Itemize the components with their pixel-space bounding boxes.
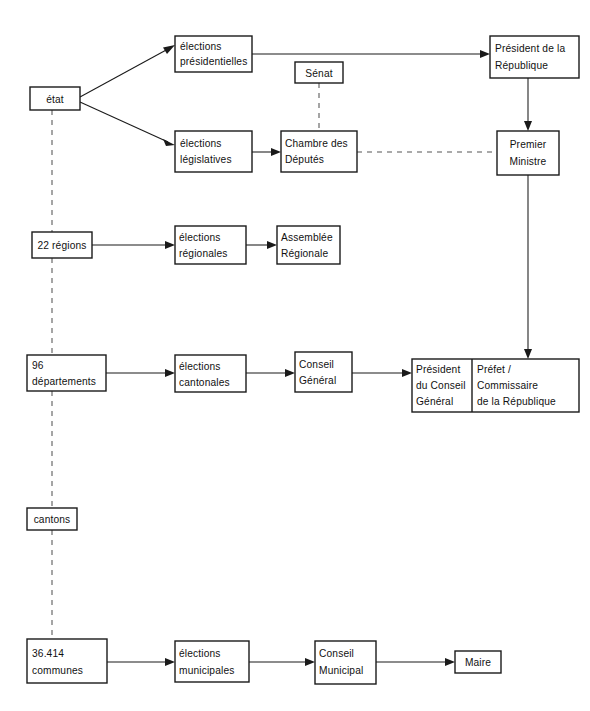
node-president-republique-line2: République (495, 60, 548, 71)
node-conseil-municipal[interactable]: Conseil Municipal (315, 641, 376, 684)
node-maire[interactable]: Maire (455, 651, 501, 673)
arrowhead-assemblee-regionale (267, 241, 277, 249)
arrowhead-premier-ministre (524, 121, 532, 131)
node-president-conseil-general-line3: Général (416, 396, 453, 407)
node-regions[interactable]: 22 régions (32, 232, 92, 258)
arrowhead-prefet (524, 349, 532, 359)
node-elections-regionales-line1: élections (179, 232, 221, 243)
node-premier-ministre-line1: Premier (510, 139, 547, 150)
node-elections-legislatives-line1: élections (180, 138, 222, 149)
node-prefet-line1: Préfet / (477, 364, 511, 375)
node-communes-line1: 36.414 (32, 648, 64, 659)
node-maire-label: Maire (465, 657, 491, 668)
node-prefet-line3: de la République (477, 396, 556, 407)
arrowhead-maire (445, 658, 455, 666)
arrowhead-elections-municipales (165, 658, 175, 666)
arrowhead-president-conseil-general (402, 369, 412, 377)
node-conseil-general[interactable]: Conseil Général (295, 352, 352, 392)
node-conseil-municipal-line1: Conseil (319, 648, 354, 659)
node-etat[interactable]: état (30, 87, 80, 110)
diagram-canvas: état élections présidentielles Sénat Pré… (0, 0, 590, 711)
node-elections-cantonales[interactable]: élections cantonales (175, 355, 246, 392)
node-communes-box (27, 639, 107, 683)
link-etat-to-elections-presidentielles (80, 49, 168, 97)
arrowhead-elections-regionales (165, 241, 175, 249)
arrowhead-chambre-deputes (271, 148, 281, 156)
arrowhead-president-republique (480, 50, 490, 58)
node-president-republique[interactable]: Président de la République (490, 36, 579, 78)
node-elections-municipales[interactable]: élections municipales (175, 641, 249, 682)
node-elections-presidentielles[interactable]: élections présidentielles (175, 36, 252, 72)
node-elections-municipales-line1: élections (179, 648, 221, 659)
node-elections-cantonales-line1: élections (179, 361, 221, 372)
node-elections-cantonales-line2: cantonales (179, 377, 230, 388)
node-assemblee-regionale[interactable]: Assemblée Régionale (277, 226, 340, 264)
node-departements-line2: départements (32, 376, 96, 387)
node-departements-line1: 96 (32, 360, 44, 371)
node-assemblee-regionale-line1: Assemblée (281, 232, 333, 243)
node-senat[interactable]: Sénat (295, 62, 343, 83)
node-president-conseil-general-line2: du Conseil (416, 380, 466, 391)
node-elections-regionales-line2: régionales (179, 248, 228, 259)
node-conseil-general-line2: Général (299, 375, 336, 386)
node-etat-label: état (46, 94, 64, 105)
link-etat-to-elections-legislatives (80, 102, 168, 142)
node-regions-label: 22 régions (37, 240, 86, 251)
organization-chart-diagram: état élections présidentielles Sénat Pré… (0, 0, 590, 711)
node-premier-ministre[interactable]: Premier Ministre (497, 131, 559, 175)
node-conseil-general-line1: Conseil (299, 359, 334, 370)
node-cantons[interactable]: cantons (27, 508, 77, 530)
arrowhead-conseil-municipal (305, 658, 315, 666)
node-departements[interactable]: 96 départements (27, 355, 106, 391)
node-president-conseil-general-line1: Président (416, 364, 460, 375)
node-conseil-general-box (295, 352, 352, 392)
arrowhead-elections-cantonales (165, 369, 175, 377)
node-senat-label: Sénat (305, 68, 332, 79)
node-cantons-label: cantons (34, 514, 71, 525)
node-elections-presidentielles-line2: présidentielles (180, 56, 247, 67)
arrowhead-elections-presidentielles (163, 45, 175, 54)
node-premier-ministre-box (497, 131, 559, 175)
node-premier-ministre-line2: Ministre (510, 156, 547, 167)
node-communes-line2: communes (32, 665, 83, 676)
node-communes[interactable]: 36.414 communes (27, 639, 107, 683)
node-president-conseil-general-prefet-group: Président du Conseil Général Préfet / Co… (412, 359, 579, 412)
node-chambre-deputes[interactable]: Chambre des Députés (281, 131, 357, 172)
node-assemblee-regionale-line2: Régionale (281, 248, 328, 259)
node-chambre-deputes-line2: Députés (285, 154, 324, 165)
arrowhead-elections-legislatives (163, 139, 175, 146)
node-elections-legislatives[interactable]: élections législatives (175, 131, 252, 172)
node-president-republique-line1: Président de la (495, 43, 565, 54)
node-chambre-deputes-line1: Chambre des (285, 138, 348, 149)
node-elections-presidentielles-line1: élections (180, 41, 222, 52)
node-conseil-municipal-line2: Municipal (319, 665, 363, 676)
arrowhead-conseil-general (285, 369, 295, 377)
node-elections-regionales[interactable]: élections régionales (175, 226, 246, 264)
node-prefet-line2: Commissaire (477, 380, 538, 391)
node-elections-legislatives-line2: législatives (180, 154, 232, 165)
node-elections-municipales-line2: municipales (179, 665, 234, 676)
